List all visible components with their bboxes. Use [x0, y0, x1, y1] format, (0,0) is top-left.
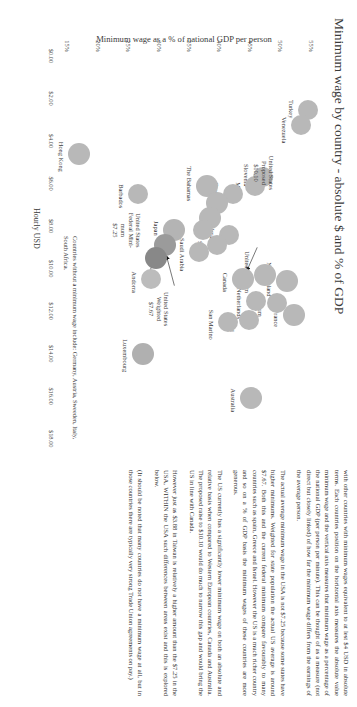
bubble-chart: Minimum wage by country - absolute $ and…	[0, 0, 357, 470]
paragraph-2: The actual average minimum wage in the U…	[232, 470, 288, 696]
x-axis: $0.00$2.00$4.00$6.00$8.00$10.00$12.00$14…	[1, 56, 55, 460]
bubble-new-zealand[interactable]	[276, 270, 298, 292]
bubble-saudi-arabia[interactable]	[189, 242, 209, 262]
bubble-label-turkey: Turkey	[288, 100, 296, 118]
bubble-label-barbados: Barbados	[118, 184, 126, 208]
bubble-label-andorra: Andorra	[131, 272, 139, 293]
page-sheet: Minimum wage by country - absolute $ and…	[0, 0, 357, 707]
x-tick-$14.00: $14.00	[48, 345, 55, 363]
bubble-hong-kong[interactable]	[68, 143, 90, 165]
bubble-label-hong-kong: Hong Kong	[58, 142, 66, 172]
callout-us-proposed: United States Proposed $10.10	[253, 156, 276, 190]
chart-footnote: Countries without a minimum wage include…	[62, 236, 79, 446]
chart-title: Minimum wage by country - absolute $ and…	[331, 18, 347, 314]
bubble-label-japan: Japan	[153, 221, 161, 236]
paragraph-1: with other countries with minimum wages …	[295, 470, 351, 696]
x-tick-$4.00: $4.00	[48, 134, 55, 148]
callout-us-weighted: United States Weighted $7.67	[147, 292, 170, 326]
bubble-label-canada: Canada	[222, 273, 230, 292]
x-tick-$12.00: $12.00	[48, 302, 55, 320]
bubble-belgium[interactable]	[267, 293, 287, 313]
bubble-label-san-marino: San Marino	[207, 310, 215, 340]
bubble-spain[interactable]	[207, 235, 227, 255]
paragraph-3: The US currently has a significantly low…	[187, 470, 224, 696]
paragraph-4: However just as $3.88 in Taiwan is relat…	[152, 470, 180, 696]
bubble-united-kingdom[interactable]	[254, 264, 276, 286]
bubble-label-venezuela: Venezuela	[281, 117, 289, 143]
bubble-ireland[interactable]	[239, 310, 259, 330]
x-tick-$16.00: $16.00	[48, 387, 55, 405]
bubble-san-marino[interactable]	[218, 312, 238, 332]
bubble-unlabeled-20[interactable]	[193, 220, 213, 240]
bubble-canada[interactable]	[232, 268, 254, 290]
bubble-australia[interactable]	[240, 387, 262, 409]
paragraph-5: (It should be noted that many countries …	[126, 470, 145, 696]
bubble-label-the-bahamas: The Bahamas	[186, 166, 194, 201]
x-tick-$10.00: $10.00	[48, 260, 55, 278]
bubble-barbados[interactable]	[128, 184, 148, 204]
bubble-label-luxembourg: Luxembourg	[121, 339, 129, 372]
bubble-netherlands[interactable]	[246, 291, 266, 311]
bubble-andorra[interactable]	[141, 269, 161, 289]
plot-area: TurkeyVenezuelaNew ZealandFranceBelgiumU…	[55, 56, 323, 460]
x-tick-$6.00: $6.00	[48, 176, 55, 190]
x-axis-title: Hourly USD	[32, 208, 41, 249]
bubble-label-australia: Australia	[230, 389, 238, 412]
bubble-luxembourg[interactable]	[132, 343, 154, 365]
x-tick-$2.00: $2.00	[48, 91, 55, 105]
bubble-label-saudi-arabia: Saudi Arabia	[178, 238, 186, 271]
article-text-column: with other countries with minimum wages …	[5, 470, 351, 702]
bubble-france[interactable]	[283, 304, 305, 326]
x-tick-$8.00: $8.00	[48, 219, 55, 233]
rotated-page-wrapper: Minimum wage by country - absolute $ and…	[0, 0, 357, 707]
arrow-to-weighted	[166, 256, 174, 286]
y-axis-title: Minimum wage as a % of national GDP per …	[59, 34, 309, 44]
bubble-venezuela[interactable]	[291, 115, 311, 135]
bubble-unlabeled-25[interactable]	[145, 247, 167, 269]
x-tick-$18.00: $18.00	[48, 430, 55, 448]
x-tick-$0.00: $0.00	[48, 49, 55, 63]
y-axis: 15%20%25%30%35%40%45%50%55% Minimum wage…	[55, 0, 323, 56]
callout-us-federal: United States Federal Mini- mum $7.25	[112, 213, 142, 248]
